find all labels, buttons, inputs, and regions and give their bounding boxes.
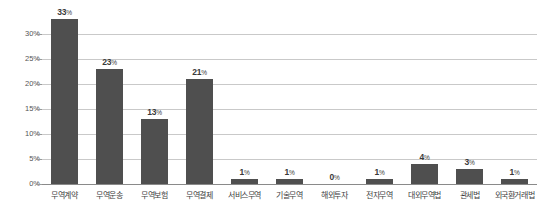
y-axis-tick-mark [36, 159, 42, 160]
bar-slot: 0% [312, 4, 357, 184]
bar-slot: 21% [177, 4, 222, 184]
bar-value-label: 1% [222, 167, 267, 177]
bar-value-percent-sign: % [66, 9, 72, 16]
bar-slot: 4% [402, 4, 447, 184]
y-axis-tick-label: 5% [0, 154, 40, 164]
x-axis-category-label: 외국환거래법 [483, 189, 547, 200]
y-axis-tick-mark [36, 184, 42, 185]
y-axis-tick-label: 0% [0, 179, 40, 189]
bar-value-label: 23% [87, 57, 132, 67]
y-axis-tick-mark [36, 134, 42, 135]
bar[interactable] [96, 69, 123, 184]
y-axis-tick-label: 20% [0, 79, 40, 89]
bar[interactable] [366, 179, 393, 184]
y-axis-tick-mark [36, 84, 42, 85]
bar[interactable] [141, 119, 168, 184]
bar-slot: 1% [267, 4, 312, 184]
bar[interactable] [51, 19, 78, 184]
bar-slot: 1% [492, 4, 537, 184]
bar-value-percent-sign: % [379, 169, 385, 176]
bar-value-label: 1% [492, 167, 537, 177]
bar-value-percent-sign: % [514, 169, 520, 176]
y-axis-tick-label: 25% [0, 54, 40, 64]
bar-value-percent-sign: % [334, 174, 340, 181]
bar[interactable] [501, 179, 528, 184]
y-axis-tick-label: 15% [0, 104, 40, 114]
bar-value-number: 13 [147, 107, 156, 117]
y-axis-tick-mark [36, 59, 42, 60]
bar-value-number: 23 [102, 57, 111, 67]
bar-value-number: 21 [192, 67, 201, 77]
bar-value-percent-sign: % [201, 69, 207, 76]
bar-value-number: 33 [57, 7, 66, 17]
plot-area: 33%23%13%21%1%1%0%1%4%3%1% [42, 4, 537, 184]
bar-value-percent-sign: % [289, 169, 295, 176]
bar-value-label: 3% [447, 157, 492, 167]
bar-value-label: 1% [357, 167, 402, 177]
bar-value-label: 33% [42, 7, 87, 17]
bar-slot: 33% [42, 4, 87, 184]
bar-value-label: 4% [402, 152, 447, 162]
bars-layer: 33%23%13%21%1%1%0%1%4%3%1% [42, 4, 537, 184]
bar-value-label: 21% [177, 67, 222, 77]
bar-slot: 3% [447, 4, 492, 184]
bar-chart: 33%23%13%21%1%1%0%1%4%3%1% 0%5%10%15%20%… [0, 0, 558, 216]
bar-value-percent-sign: % [111, 59, 117, 66]
bar-value-label: 1% [267, 167, 312, 177]
bar-slot: 1% [222, 4, 267, 184]
y-axis-tick-label: 10% [0, 129, 40, 139]
bar-value-label: 0% [312, 172, 357, 182]
bar[interactable] [186, 79, 213, 184]
y-axis-tick-mark [36, 109, 42, 110]
y-axis-tick-label: 30% [0, 29, 40, 39]
axis-baseline [42, 184, 537, 185]
bar[interactable] [231, 179, 258, 184]
bar-value-percent-sign: % [469, 159, 475, 166]
bar[interactable] [456, 169, 483, 184]
bar[interactable] [411, 164, 438, 184]
bar[interactable] [276, 179, 303, 184]
bar-value-percent-sign: % [424, 154, 430, 161]
bar-value-percent-sign: % [244, 169, 250, 176]
bar-slot: 13% [132, 4, 177, 184]
y-axis-tick-mark [36, 34, 42, 35]
x-axis-labels: 무역계약무역운송무역보험무역결제서비스무역기술무역해외투자전자무역대외무역법관세… [42, 189, 537, 205]
bar-value-label: 13% [132, 107, 177, 117]
bar-slot: 23% [87, 4, 132, 184]
bar-slot: 1% [357, 4, 402, 184]
bar-value-percent-sign: % [156, 109, 162, 116]
